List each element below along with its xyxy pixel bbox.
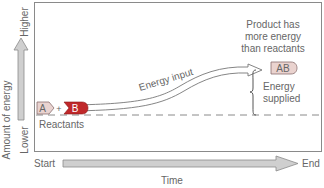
y-axis-high-label: Higher	[19, 7, 30, 37]
product-caption-line-3: than reactants	[241, 43, 304, 54]
product-molecule-label: AB	[276, 63, 290, 74]
y-axis-low-label: Lower	[19, 126, 30, 154]
reactants-label: Reactants	[39, 119, 84, 130]
product-caption-line-1: Product has	[246, 19, 299, 30]
molecule-b-label: B	[72, 103, 79, 114]
x-axis-start-label: Start	[34, 158, 55, 169]
x-axis-end-label: End	[302, 158, 320, 169]
x-axis-label: Time	[161, 175, 183, 186]
y-axis-arrow	[14, 38, 28, 120]
endergonic-reaction-diagram: Amount of energy Higher Lower Energy inp…	[0, 0, 324, 188]
energy-supplied-line-1: Energy	[263, 81, 295, 92]
molecule-a-label: A	[39, 103, 46, 114]
x-axis-arrow	[63, 156, 298, 171]
product-caption-line-2: more energy	[245, 31, 301, 42]
y-axis-label: Amount of energy	[1, 81, 12, 160]
energy-supplied-line-2: supplied	[263, 93, 300, 104]
plus-sign: +	[56, 104, 61, 114]
